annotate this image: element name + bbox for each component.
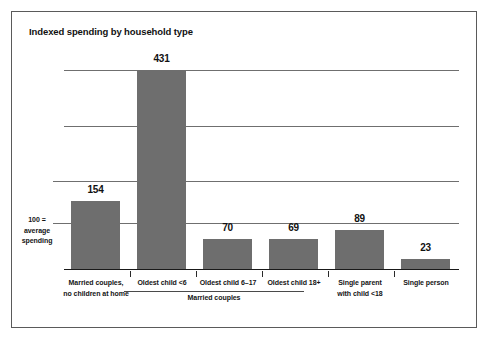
bar-married-couples-no-children [71,201,120,270]
axis-tick [328,271,329,277]
gridline-431 [64,70,459,71]
bar-value-label: 431 [137,53,186,64]
axis-tick [196,271,197,277]
bar-oldest-child-6-17 [203,239,252,270]
page-title: Indexed spending by household type [29,26,193,37]
axis-baseline [64,269,459,271]
bar-value-label: 69 [269,222,318,233]
bar-value-label: 23 [401,242,450,253]
category-label-line: Single person [403,279,449,286]
gridline-100 [64,223,459,224]
bar-value-label: 154 [71,184,120,195]
gridline-310 [64,126,459,127]
category-label-line: Oldest child 6–17 [200,279,257,286]
category-label-line: Oldest child 18+ [267,279,320,286]
bar-oldest-child-under-6 [137,70,186,270]
y-axis-note: 100 = average spending [12,215,62,247]
group-bracket-label: Married couples [124,294,304,301]
category-label-line: Single parent [338,279,382,286]
category-label-line: Oldest child <6 [137,279,186,286]
bar-oldest-child-18-plus [269,239,318,270]
category-label-line: with child <18 [337,290,382,297]
category-label-single-person: Single person [386,278,466,289]
chart-figure: Indexed spending by household type 154 4… [11,11,477,328]
category-label-line: Married couples, [69,279,124,286]
group-bracket-rule [124,291,304,292]
gridline-190 [64,181,459,182]
axis-stub-190 [53,181,64,182]
bar-value-label: 89 [335,213,384,224]
bar-single-parent-child-under-18 [335,230,384,270]
bar-value-label: 70 [203,222,252,233]
plot-area: 154 431 70 69 89 23 [64,48,459,270]
axis-tick [262,271,263,277]
axis-tick [130,271,131,277]
axis-tick [394,271,395,277]
category-label-line: no children at home [63,290,129,297]
